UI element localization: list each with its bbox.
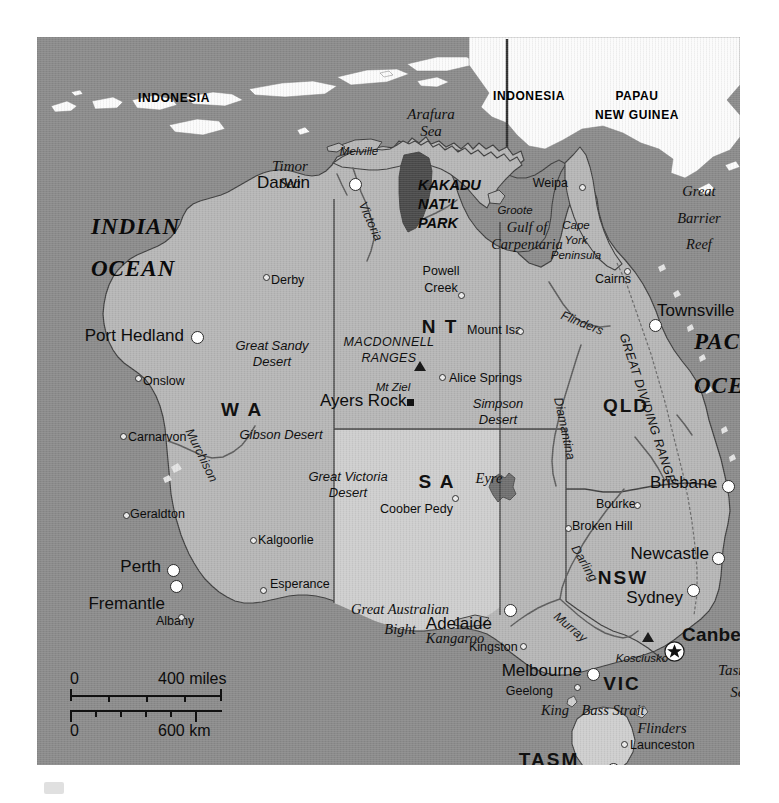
city-marker-onslow (135, 375, 142, 382)
map-page: INDONESIAINDONESIAPAPAUNEW GUINEAINDIANO… (0, 0, 779, 803)
city-label-derby: Derby (271, 274, 304, 287)
physical-label-tasmania: Tasmania (622, 763, 691, 765)
city-label-adelaide: Adelaide (426, 615, 492, 633)
sea-label-tasman: Tasman (718, 663, 740, 679)
city-label-esperance: Esperance (270, 578, 330, 591)
city-marker-perth (167, 564, 180, 577)
city-label-darwin: Darwin (257, 174, 310, 192)
desert-label-gibson-desert: Gibson Desert (239, 428, 322, 442)
physical-label-reef: Reef (686, 237, 712, 252)
scale-km-tick-3 (145, 710, 147, 717)
city-marker-alice-springs (439, 374, 446, 381)
city-marker-launceston (621, 741, 628, 748)
state-label-w-a: W A (221, 400, 263, 420)
city-label-geraldton: Geraldton (130, 508, 185, 521)
city-label-kalgoorlie: Kalgoorlie (258, 534, 314, 547)
state-label-tasm: TASM (519, 750, 579, 765)
city-marker-port-hedland (191, 331, 204, 344)
city-label-bourke: Bourke (596, 498, 636, 511)
desert-label-simpson: Simpson (473, 397, 524, 411)
city-label-townsville: Townsville (657, 302, 734, 320)
country-label-papau: PAPAU (615, 90, 658, 103)
physical-label-bight: Bight (384, 622, 415, 637)
city-marker-powell (458, 292, 465, 299)
australia-map: INDONESIAINDONESIAPAPAUNEW GUINEAINDIANO… (37, 37, 740, 765)
city-marker-brisbane (722, 480, 735, 493)
city-label-sydney: Sydney (626, 589, 683, 607)
city-label-brisbane: Brisbane (650, 474, 717, 492)
peak-marker-mt-ziel (414, 361, 426, 371)
scale-miles-zero: 0 (70, 670, 79, 688)
city-marker-geelong (574, 684, 581, 691)
national-park-label-line-3: PARK (418, 216, 458, 232)
country-label-new-guinea: NEW GUINEA (595, 109, 679, 122)
landmark-label-ayers-rock: Ayers Rock (320, 392, 407, 410)
city-label-broken-hill: Broken Hill (572, 520, 632, 533)
physical-label-bass-strait: Bass Strait (581, 703, 644, 718)
city-marker-kalgoorlie (250, 537, 257, 544)
physical-label-flinders: Flinders (637, 721, 686, 736)
city-marker-coober-pedy (452, 495, 459, 502)
city-marker-newcastle (712, 552, 725, 565)
city-label-carnarvon: Carnarvon (128, 431, 186, 444)
sea-label-sea: Sea (420, 124, 442, 140)
ocean-label-indian: INDIAN (91, 215, 180, 239)
city-marker-sydney (687, 584, 700, 597)
city-label-fremantle: Fremantle (88, 595, 165, 613)
scale-miles-tick-2 (146, 695, 148, 702)
scale-miles-label: 400 miles (158, 670, 226, 688)
city-marker-albany (178, 614, 185, 621)
city-label-alice-springs: Alice Springs (449, 372, 522, 385)
peak-marker-kosciusko (642, 632, 654, 642)
page-artifact (44, 782, 64, 794)
scale-miles-tick-3 (184, 695, 186, 702)
city-label-perth: Perth (120, 558, 161, 576)
desert-label-great-sandy: Great Sandy (236, 339, 309, 353)
city-marker-adelaide (504, 604, 517, 617)
city-marker-mount-isa (517, 328, 524, 335)
state-label-nsw: NSW (598, 568, 648, 588)
ocean-label-ocean: OCEAN (694, 374, 740, 398)
state-label-vic: VIC (603, 674, 641, 694)
physical-label-peninsula: Peninsula (551, 249, 602, 261)
city-label-port-hedland: Port Hedland (85, 327, 184, 345)
capital-label-canberra: Canberra (682, 625, 740, 645)
desert-label-simpson-2: Desert (479, 413, 517, 427)
physical-label-king: King (541, 703, 569, 718)
city-label-mount-isa: Mount Isa (467, 324, 522, 337)
ocean-label-ocean: OCEAN (91, 257, 175, 281)
country-label-indonesia: INDONESIA (138, 92, 210, 105)
city-label-cairns: Cairns (595, 273, 631, 286)
city-label-powell: Powell (423, 265, 460, 278)
physical-label-gulf-of: Gulf of (507, 220, 548, 235)
city-marker-esperance (260, 587, 267, 594)
city-marker-darwin (349, 178, 362, 191)
scale-km-tick-0 (70, 710, 72, 722)
physical-label-cape: Cape (562, 219, 590, 231)
city-label-melbourne: Melbourne (502, 662, 582, 680)
national-park-label-line-2: NAT'L (418, 197, 459, 213)
range-label-macdonnell-2: RANGES (361, 352, 416, 365)
city-marker-fremantle (170, 580, 183, 593)
scale-km-zero: 0 (70, 722, 79, 740)
range-label-macdonnell: MACDONNELL (344, 336, 435, 349)
ocean-label-pacific: PACIFIC (694, 330, 740, 354)
scale-km-tick-2 (120, 710, 122, 717)
sea-label-sea: Sea (730, 685, 740, 701)
peak-label-kosciusko: Kosciusko (616, 652, 668, 664)
city-label-coober-pedy: Coober Pedy (380, 503, 453, 516)
country-label-indonesia: INDONESIA (493, 90, 565, 103)
city-label-geelong: Geelong (506, 685, 553, 698)
scale-bar: 0 400 miles 0 600 km (70, 670, 270, 748)
physical-label-barrier: Barrier (677, 211, 721, 226)
city-label-powell-2: Creek (424, 282, 457, 295)
city-label-onslow: Onslow (143, 375, 185, 388)
physical-label-york: York (564, 234, 587, 246)
city-marker-carnarvon (120, 433, 127, 440)
capital-marker-canberra (664, 641, 685, 662)
state-fill-south-australia (334, 429, 500, 630)
desert-label-great-victoria-2: Desert (329, 486, 367, 500)
physical-label-groote: Groote (497, 204, 532, 216)
city-marker-melbourne (587, 668, 600, 681)
desert-label-great-victoria: Great Victoria (308, 470, 387, 484)
